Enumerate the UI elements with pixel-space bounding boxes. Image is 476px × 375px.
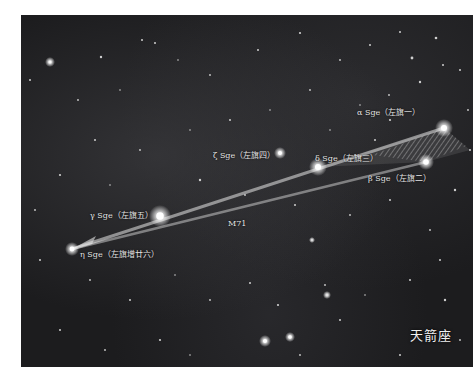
- star-field: [21, 15, 473, 367]
- labeled-stars: [45, 57, 453, 347]
- star-label-beta: β Sge（左旗二）: [368, 172, 431, 183]
- object-label-m71: M71: [228, 219, 246, 228]
- star-label-gamma: γ Sge（左旗五）: [90, 209, 153, 220]
- arrow-figure-overlay: [72, 128, 470, 249]
- star-label-delta: δ Sge（左旗三）: [315, 152, 378, 163]
- sagitta-star-photo: [21, 15, 473, 367]
- star-label-alpha: α Sge（左旗一）: [357, 106, 420, 117]
- constellation-name: 天箭座: [410, 325, 452, 344]
- background-stars: [29, 31, 471, 356]
- star-label-zeta: ζ Sge（左旗四）: [213, 149, 275, 160]
- star-label-eta: η Sge（左旗增廿六）: [80, 248, 159, 259]
